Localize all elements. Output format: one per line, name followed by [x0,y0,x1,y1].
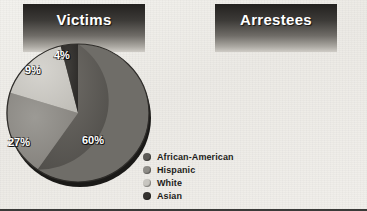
legend-swatch-icon [143,153,151,161]
title-banner-arrestees: Arrestees [215,4,337,52]
chart-legend: African-American Hispanic White Asian [143,150,263,202]
slice-label-white: 9% [25,64,41,76]
slice-label-african-american: 60% [82,134,104,146]
slice-label-asian: 4% [54,49,70,61]
pie-chart-victims: 60% 27% 9% 4% [4,36,156,188]
legend-item-white: White [143,176,263,189]
panel-title-victims: Victims [23,11,145,28]
legend-label: White [157,178,182,188]
legend-label: Asian [157,191,182,201]
slice-label-hispanic: 27% [8,136,30,148]
legend-item-asian: Asian [143,189,263,202]
legend-item-african-american: African-American [143,150,263,163]
panel-title-arrestees: Arrestees [215,11,337,28]
legend-swatch-icon [143,179,151,187]
legend-item-hispanic: Hispanic [143,163,263,176]
legend-swatch-icon [143,192,151,200]
legend-label: African-American [157,152,234,162]
pie-chart-figure: Victims [0,0,367,211]
legend-label: Hispanic [157,165,195,175]
legend-swatch-icon [143,166,151,174]
